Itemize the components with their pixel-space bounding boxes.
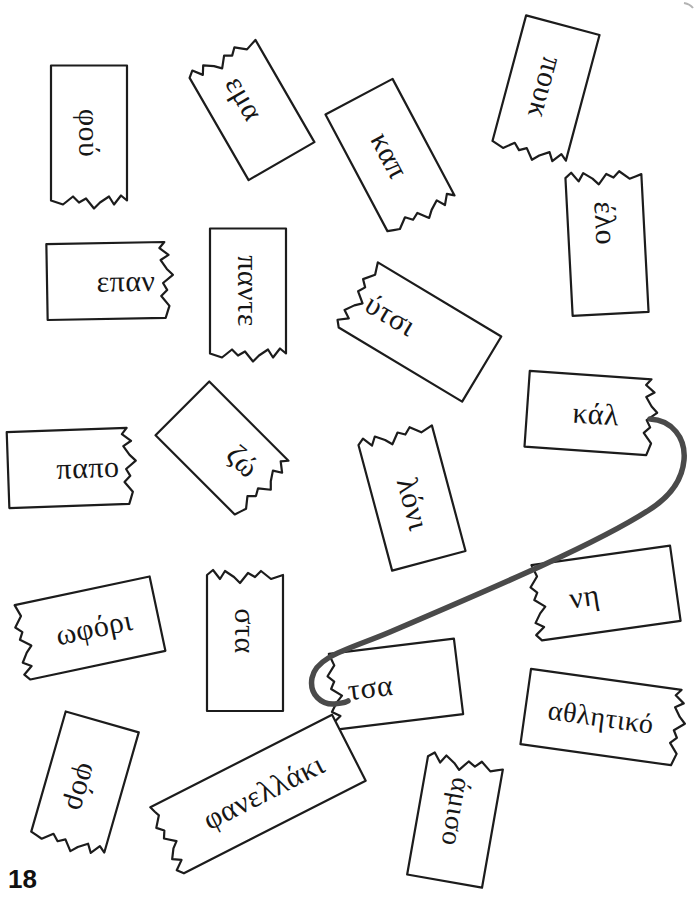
piece-label: έλο	[588, 200, 623, 245]
worksheet-canvas: φού εμα καπ πουκ έλο επαν	[0, 0, 696, 897]
piece-label: τσα	[346, 668, 395, 706]
torn-card-shape	[156, 382, 295, 521]
piece-for[interactable]: φόρ	[29, 711, 139, 860]
piece-ema[interactable]: εμα	[187, 36, 314, 181]
piece-pante[interactable]: παντε	[210, 229, 286, 362]
piece-ofori[interactable]: ωφόρι	[10, 576, 166, 680]
piece-loni[interactable]: λόνι	[357, 421, 465, 571]
piece-zo[interactable]: ζώ	[156, 382, 295, 521]
piece-epan[interactable]: επαν	[46, 242, 173, 320]
piece-ytsi[interactable]: ύτσι	[334, 260, 501, 402]
piece-pouk[interactable]: πουκ	[490, 15, 599, 168]
scan-artifact-mark	[684, 3, 693, 8]
piece-label: νη	[567, 578, 602, 615]
piece-athlitiko[interactable]: αθλητικό	[520, 669, 689, 767]
piece-elo[interactable]: έλο	[565, 169, 648, 316]
piece-label: παντε	[232, 255, 265, 327]
piece-fou[interactable]: φού	[51, 66, 127, 209]
piece-kap[interactable]: καπ	[325, 79, 458, 238]
piece-kal[interactable]: κάλ	[524, 371, 659, 456]
piece-sta[interactable]: στα	[207, 570, 283, 711]
piece-amiso[interactable]: άμισο	[407, 751, 504, 887]
piece-label: παπο	[56, 450, 120, 485]
piece-label: φού	[73, 109, 106, 158]
piece-papo[interactable]: παπο	[7, 428, 138, 508]
piece-label: κάλ	[572, 395, 621, 431]
piece-fanellaki[interactable]: φανελλάκι	[146, 715, 366, 876]
piece-label: στα	[229, 608, 262, 653]
piece-label: επαν	[96, 264, 156, 298]
page-number: 18	[8, 864, 37, 895]
torn-card-shape	[334, 260, 501, 402]
worksheet-page: φού εμα καπ πουκ έλο επαν	[0, 0, 696, 897]
